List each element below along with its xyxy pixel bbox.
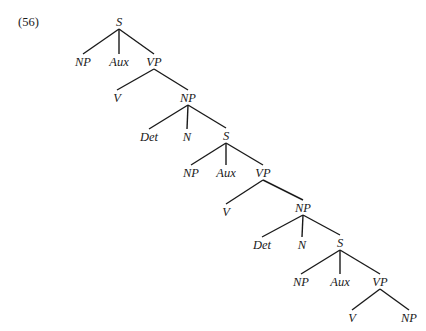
tree-edge: [303, 215, 340, 235]
tree-edge: [380, 289, 409, 310]
tree-node-np: NP: [75, 55, 91, 69]
syntax-tree-diagram: (56) SNPAuxVPVNPDetNSNPAuxVPVNPDetNSNPAu…: [0, 0, 426, 331]
tree-node-aux: Aux: [330, 275, 349, 289]
tree-node-aux: Aux: [216, 166, 235, 180]
tree-edge: [262, 215, 303, 237]
tree-node-np: NP: [293, 275, 309, 289]
tree-node-n: N: [298, 238, 306, 252]
tree-node-np: NP: [295, 201, 311, 215]
tree-edge: [83, 29, 119, 54]
tree-edge: [301, 250, 340, 274]
tree-node-s: S: [337, 236, 343, 250]
tree-edge: [226, 180, 263, 204]
tree-edges: [0, 0, 426, 331]
tree-node-vp: VP: [255, 166, 270, 180]
tree-node-s: S: [116, 15, 122, 29]
tree-edge: [187, 105, 188, 129]
tree-edge: [263, 180, 303, 200]
tree-node-np: NP: [401, 311, 417, 325]
tree-edge: [226, 143, 263, 165]
tree-edge: [191, 143, 226, 165]
tree-edge: [149, 105, 188, 129]
tree-edge: [340, 250, 380, 274]
tree-edge: [188, 105, 226, 128]
tree-node-s: S: [223, 129, 229, 143]
tree-node-v: V: [348, 311, 356, 325]
tree-node-aux: Aux: [109, 55, 128, 69]
tree-node-vp: VP: [146, 55, 161, 69]
tree-edge: [119, 29, 154, 54]
tree-node-det: Det: [253, 238, 271, 252]
tree-node-det: Det: [140, 130, 158, 144]
tree-node-np: NP: [180, 91, 196, 105]
tree-node-v: V: [222, 205, 230, 219]
tree-edge: [154, 69, 188, 90]
tree-edge: [117, 69, 154, 90]
tree-edge: [302, 215, 303, 237]
tree-node-np: NP: [183, 166, 199, 180]
tree-node-v: V: [113, 91, 121, 105]
tree-edge: [352, 289, 380, 310]
tree-node-n: N: [183, 130, 191, 144]
tree-node-vp: VP: [372, 275, 387, 289]
